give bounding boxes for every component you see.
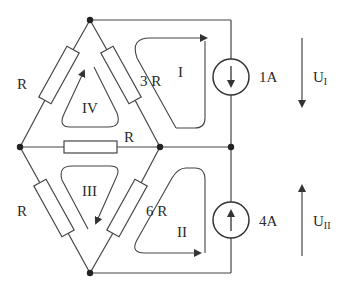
resistor-bottom-right [107,179,147,237]
label-resistor-bottom-left: R [17,203,27,219]
circuit-diagram: R 3 R R R 6 R 1A 4A I II III IV UI UII [0,0,345,288]
label-voltage-lower: UII [313,213,331,231]
node-left [17,144,23,150]
label-resistor-top-right: 3 R [140,73,161,89]
resistor-bottom-left [34,179,74,237]
node-top [87,17,93,23]
label-loop-iv: IV [82,100,98,116]
label-resistor-bottom-right: 6 R [146,203,167,219]
node-right [228,144,234,150]
label-voltage-upper: UI [313,69,327,87]
label-source-lower: 4A [259,213,278,229]
label-resistor-middle: R [124,129,134,145]
resistor-top-right [101,46,141,104]
node-bottom [87,270,93,276]
loop-arrow-iv [62,67,118,127]
current-source-upper [213,59,249,95]
node-center [157,144,163,150]
resistor-middle [64,141,117,153]
label-resistor-top-left: R [17,76,27,92]
current-source-lower [213,202,249,238]
label-loop-ii: II [177,224,187,240]
label-source-upper: 1A [259,69,278,85]
wires [20,20,231,273]
label-loop-i: I [178,64,183,80]
label-loop-iii: III [82,183,97,199]
